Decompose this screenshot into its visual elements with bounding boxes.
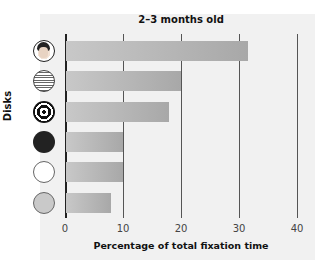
bar-gray-disk: [66, 193, 111, 213]
x-tick-10: 10: [113, 223, 133, 234]
y-axis-label: Disks: [2, 86, 13, 126]
x-tick-0: 0: [55, 223, 75, 234]
bar-printed-text: [66, 71, 181, 91]
x-tick-20: 20: [171, 223, 191, 234]
gridline-10: [123, 34, 124, 218]
gridline-20: [181, 34, 182, 218]
bar-face: [66, 41, 248, 61]
x-tick-40: 40: [287, 223, 307, 234]
x-axis-label: Percentage of total fixation time: [65, 240, 297, 251]
bar-white-disk: [66, 162, 123, 182]
gray-disk-icon: [33, 192, 55, 214]
black-disk-icon: [33, 131, 55, 153]
x-tick-30: 30: [229, 223, 249, 234]
bullseye-disk-icon: [33, 101, 55, 123]
face-disk-icon: [33, 40, 55, 62]
bar-bullseye: [66, 102, 169, 122]
chart-title: 2–3 months old: [65, 14, 297, 25]
bar-black-disk: [66, 132, 123, 152]
gridline-40: [297, 34, 298, 218]
x-axis-line: [65, 34, 67, 218]
gridline-30: [239, 34, 240, 218]
white-disk-icon: [33, 161, 55, 183]
printed-text-disk-icon: [33, 70, 55, 92]
